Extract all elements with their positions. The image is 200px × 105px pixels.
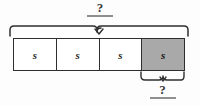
bar-segment-shaded: s <box>142 39 184 70</box>
bar-segment: s <box>57 39 100 70</box>
bottom-question-mark: ? <box>146 83 179 96</box>
bottom-brace-label: ? <box>146 83 179 99</box>
top-brace <box>9 25 189 37</box>
bar-segment: s <box>100 39 143 70</box>
bottom-label-underline <box>150 97 176 99</box>
bottom-brace-icon <box>140 72 185 82</box>
top-brace-label: ? <box>84 1 116 17</box>
bar-segment-label: s <box>75 49 79 61</box>
top-question-mark: ? <box>84 1 116 14</box>
bar-segment-label: s <box>118 49 122 61</box>
bar-segment-label: s <box>33 49 37 61</box>
bar-segment-label: s <box>161 49 165 61</box>
bar-segment: s <box>14 39 57 70</box>
tape-diagram: ? s s s s ? <box>0 0 200 105</box>
bar-segments-container: s s s s <box>13 38 185 71</box>
top-brace-icon <box>9 25 189 37</box>
top-label-underline <box>87 15 113 17</box>
bottom-brace <box>140 72 185 82</box>
